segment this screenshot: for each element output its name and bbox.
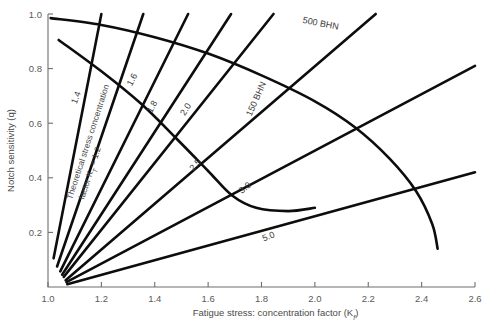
kt-label-1.8: 1.8 <box>145 99 160 115</box>
x-tick-label: 1.8 <box>255 293 268 304</box>
y-tick-label: 0.6 <box>29 118 42 129</box>
x-axis-subscript: f <box>353 314 356 321</box>
notch-sensitivity-chart: 1.01.21.41.61.82.02.22.42.61.00.80.60.40… <box>0 0 489 323</box>
y-tick-label: 0.8 <box>29 63 42 74</box>
kt-label-2.0: 2.0 <box>178 101 193 117</box>
y-tick-label: 0.4 <box>29 172 42 183</box>
data-lines-group <box>54 14 475 284</box>
x-tick-label: 2.4 <box>415 293 428 304</box>
bhn-label-150-bhn: 150 BHN <box>244 80 268 117</box>
x-tick-label: 1.2 <box>95 293 108 304</box>
y-tick-label: 0.2 <box>29 227 42 238</box>
x-tick-label: 1.0 <box>41 293 54 304</box>
x-tick-label: 2.2 <box>362 293 375 304</box>
bhn-label-500-bhn: 500 BHN <box>302 15 340 32</box>
x-tick-label: 2.6 <box>468 293 481 304</box>
kt-label-1.6: 1.6 <box>125 72 140 88</box>
kt-annotation-subscript: T <box>91 167 99 174</box>
y-axis-title: Notch sensitivity (q) <box>5 109 16 192</box>
x-tick-label: 2.0 <box>308 293 321 304</box>
kt-line-2.5 <box>66 14 376 280</box>
kt-label-2.5: 2.5 <box>187 157 203 173</box>
kt-label-1.4: 1.4 <box>69 90 83 105</box>
axis-frame <box>48 14 475 287</box>
kt-line-1.6 <box>60 14 188 271</box>
chart-canvas: 1.01.21.41.61.82.02.22.42.61.00.80.60.40… <box>0 0 489 323</box>
kt-label-3.0: 3.0 <box>237 180 253 196</box>
x-tick-label: 1.4 <box>148 293 161 304</box>
x-axis-title: Fatigue stress: concentration factor (Kf… <box>193 307 359 321</box>
y-tick-label: 1.0 <box>29 9 42 20</box>
kt-line-1.4 <box>57 14 143 267</box>
x-tick-label: 1.6 <box>202 293 215 304</box>
